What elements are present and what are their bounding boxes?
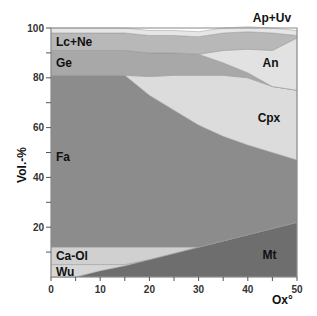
y-tick-label: 40 [33,172,45,183]
x-tick-label: 50 [291,284,303,295]
y-tick-label: 80 [33,72,45,83]
label-ap-uv: Ap+Uv [253,11,292,25]
x-tick-label: 0 [48,284,54,295]
label-ca-ol: Ca-Ol [56,249,88,263]
label-mt: Mt [263,248,277,262]
label-wu: Wu [56,265,74,279]
stacked-area-chart: 2040608010001020304050 Ap+UvLc+NeGeAnCpx… [0,0,317,316]
label-cpx: Cpx [258,111,281,125]
x-axis-title: Ox° [272,293,293,307]
label-an: An [263,56,279,70]
x-tick-label: 10 [95,284,107,295]
x-tick-label: 30 [193,284,205,295]
y-axis-title: Vol.-% [15,147,29,183]
y-tick-label: 60 [33,122,45,133]
x-tick-label: 40 [242,284,254,295]
label-fa: Fa [56,150,70,164]
label-lc-ne: Lc+Ne [56,35,93,49]
x-tick-label: 20 [144,284,156,295]
y-tick-label: 100 [27,23,44,34]
area-layers [51,27,297,277]
label-ge: Ge [56,56,72,70]
y-tick-label: 20 [33,222,45,233]
